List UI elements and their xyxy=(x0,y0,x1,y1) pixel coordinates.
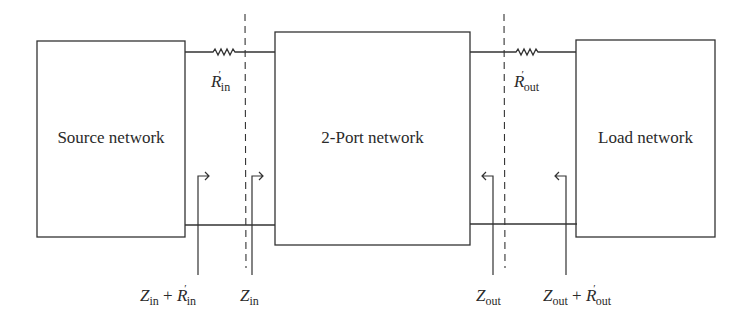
circuit-diagram xyxy=(0,0,752,325)
r-in-label: R′in xyxy=(211,72,230,92)
zin-label: Zin xyxy=(240,286,259,306)
r-out-label: R′out xyxy=(514,72,539,92)
arrow-zin-plus-rin xyxy=(198,172,209,275)
two-port-network-label: 2-Port network xyxy=(275,128,470,148)
output-top-wire xyxy=(470,49,576,55)
arrow-zin xyxy=(252,172,263,275)
zout-plus-rout-label: Zout + R′out xyxy=(543,286,611,306)
input-top-wire xyxy=(185,49,275,55)
zin-plus-rin-label: Zin + R′in xyxy=(140,286,196,306)
source-network-label: Source network xyxy=(37,128,185,148)
load-network-label: Load network xyxy=(576,128,715,148)
zout-label: Zout xyxy=(476,286,501,306)
